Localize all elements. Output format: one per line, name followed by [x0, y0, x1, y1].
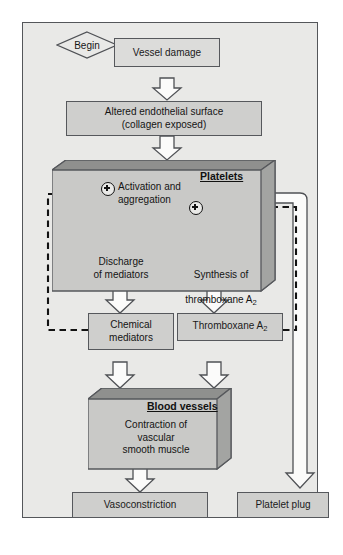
node-platelet-plug-label: Platelet plug	[255, 499, 310, 511]
node-synthesis-subscript: 2	[253, 297, 257, 306]
node-altered-endothelial-label: Altered endothelial surface (collagen ex…	[105, 106, 223, 132]
node-contraction-label: Contraction of vascular smooth muscle	[95, 419, 217, 457]
begin-label: Begin	[56, 31, 118, 59]
node-activation-label: Activation and aggregation	[118, 181, 233, 206]
plus-icon-activation-right	[189, 201, 203, 215]
node-thromboxane-subscript: 2	[263, 324, 267, 333]
diagram-canvas: Begin Vessel damage Altered endothelial …	[0, 0, 343, 555]
node-thromboxane[interactable]: Thromboxane A2	[177, 313, 283, 341]
node-synthesis-line1: Synthesis of	[194, 269, 248, 280]
node-vasoconstriction[interactable]: Vasoconstriction	[72, 492, 208, 518]
node-thromboxane-label: Thromboxane A2	[193, 320, 268, 334]
node-thromboxane-text: Thromboxane A	[193, 320, 264, 331]
node-blood-vessels-header-label: Blood vessels	[147, 400, 218, 412]
node-platelet-plug[interactable]: Platelet plug	[237, 492, 329, 518]
node-blood-vessels-header: Blood vessels	[147, 400, 218, 412]
node-vasoconstriction-label: Vasoconstriction	[104, 499, 177, 511]
node-synthesis-label: Synthesis of thromboxane A2	[166, 256, 276, 307]
node-discharge-label: Discharge of mediators	[75, 256, 167, 281]
node-synthesis-line2: thromboxane A	[185, 294, 252, 305]
node-chemical-mediators[interactable]: Chemical mediators	[88, 313, 174, 350]
node-vessel-damage[interactable]: Vessel damage	[114, 38, 220, 67]
node-chemical-mediators-label: Chemical mediators	[109, 319, 153, 345]
node-altered-endothelial[interactable]: Altered endothelial surface (collagen ex…	[66, 101, 262, 136]
node-vessel-damage-label: Vessel damage	[133, 47, 201, 59]
begin-diamond: Begin	[56, 31, 118, 59]
plus-icon-activation-left	[101, 182, 115, 196]
